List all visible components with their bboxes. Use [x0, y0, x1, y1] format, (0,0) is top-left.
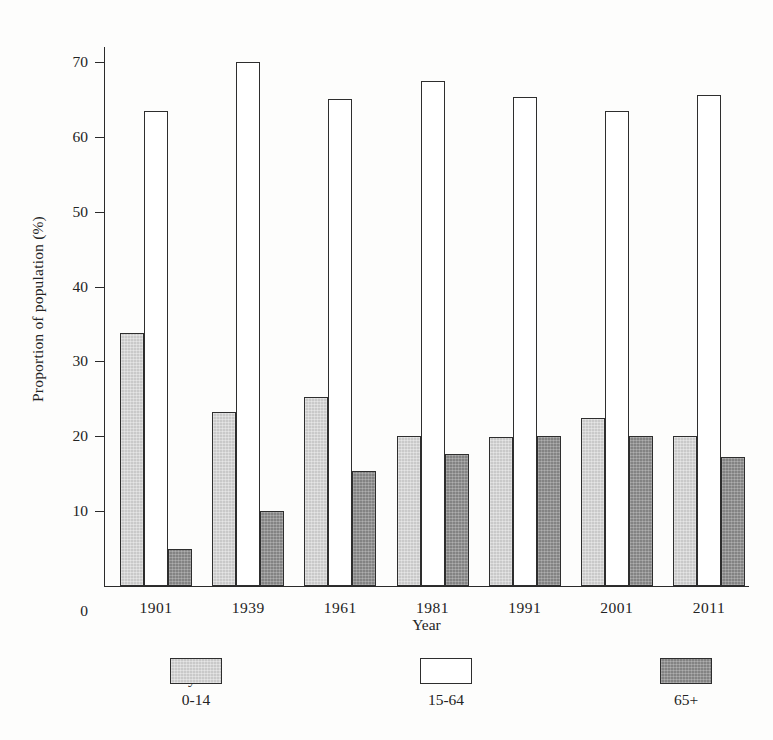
bar-1991-65+[interactable] [537, 436, 561, 586]
x-tick-label-1991: 1991 [480, 599, 570, 617]
bar-group-2011 [673, 47, 745, 586]
legend-item-65+[interactable]: 65+ [660, 658, 712, 709]
bar-1961-65+[interactable] [352, 471, 376, 586]
legend-label-15-64: 15-64 [420, 691, 472, 709]
y-tick-10 [95, 511, 105, 512]
bar-group-2001 [581, 47, 653, 586]
y-axis-line [104, 47, 105, 586]
bar-2001-65+[interactable] [629, 436, 653, 586]
plot-area: 010203040506070 190119391961198119912001… [104, 47, 749, 586]
y-tick-label-10: 10 [52, 503, 88, 519]
y-tick-60 [95, 137, 105, 138]
y-tick-label-30: 30 [52, 353, 88, 369]
bar-1961-0-14[interactable] [304, 397, 328, 586]
bar-group-1981 [397, 47, 469, 586]
bar-1991-15-64[interactable] [513, 97, 537, 586]
y-tick-label-70: 70 [52, 54, 88, 70]
bar-1961-15-64[interactable] [328, 99, 352, 586]
bar-1991-0-14[interactable] [489, 437, 513, 586]
bar-2001-0-14[interactable] [581, 418, 605, 586]
y-axis-title: Proportion of population (%) [29, 159, 47, 459]
bar-group-1991 [489, 47, 561, 586]
y-tick-label-60: 60 [52, 129, 88, 145]
legend-label-0-14: 0-14 [170, 691, 222, 709]
y-tick-40 [95, 287, 105, 288]
y-tick-70 [95, 62, 105, 63]
x-tick-label-2011: 2011 [664, 599, 754, 617]
bar-chart-figure: Proportion of population (%) 01020304050… [0, 0, 773, 740]
bar-2011-65+[interactable] [721, 457, 745, 587]
bar-1981-0-14[interactable] [397, 436, 421, 586]
x-axis-title: Year [104, 616, 749, 634]
bar-1981-15-64[interactable] [421, 81, 445, 586]
y-tick-label-0: 0 [52, 602, 88, 620]
y-tick-30 [95, 361, 105, 362]
bar-2011-0-14[interactable] [673, 436, 697, 586]
bar-1901-65+[interactable] [168, 549, 192, 586]
x-tick-label-1901: 1901 [111, 599, 201, 617]
bar-group-1901 [120, 47, 192, 586]
bar-1981-65+[interactable] [445, 454, 469, 586]
legend-item-0-14[interactable]: 0-14 [170, 658, 222, 709]
bar-2011-15-64[interactable] [697, 95, 721, 586]
chart-legend: Key 0-1415-6465+ [104, 658, 749, 728]
x-axis-line [104, 586, 749, 587]
y-tick-20 [95, 436, 105, 437]
y-tick-label-20: 20 [52, 428, 88, 444]
y-tick-50 [95, 212, 105, 213]
bar-1901-15-64[interactable] [144, 111, 168, 586]
x-tick-label-2001: 2001 [572, 599, 662, 617]
y-tick-label-50: 50 [52, 204, 88, 220]
x-tick-label-1961: 1961 [295, 599, 385, 617]
legend-item-15-64[interactable]: 15-64 [420, 658, 472, 709]
bar-1939-0-14[interactable] [212, 412, 236, 586]
legend-label-65+: 65+ [660, 691, 712, 709]
y-tick-label-40: 40 [52, 279, 88, 295]
bar-1901-0-14[interactable] [120, 333, 144, 586]
bar-group-1939 [212, 47, 284, 586]
bar-1939-15-64[interactable] [236, 62, 260, 586]
legend-swatch-15-64 [420, 658, 472, 684]
bar-group-1961 [304, 47, 376, 586]
x-tick-label-1981: 1981 [388, 599, 478, 617]
bar-1939-65+[interactable] [260, 511, 284, 586]
x-tick-label-1939: 1939 [203, 599, 293, 617]
legend-swatch-65+ [660, 658, 712, 684]
legend-swatch-0-14 [170, 658, 222, 684]
bar-2001-15-64[interactable] [605, 111, 629, 586]
